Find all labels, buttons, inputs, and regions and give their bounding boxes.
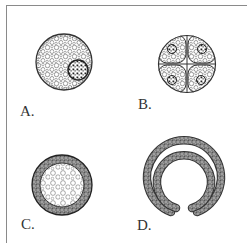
panel-d-label: D. bbox=[137, 218, 152, 233]
panel-c-label: C. bbox=[21, 217, 35, 232]
panel-a-single-cell bbox=[36, 34, 92, 90]
panel-d-gastrula bbox=[147, 140, 221, 212]
embryo-development-figure: A. B. C. D. bbox=[0, 0, 247, 243]
figure-drawings bbox=[0, 0, 247, 243]
panel-a-label: A. bbox=[20, 104, 35, 119]
panel-b-four-cell-stage bbox=[158, 35, 216, 93]
panel-b-label: B. bbox=[138, 97, 152, 112]
panel-c-blastula bbox=[32, 155, 92, 215]
